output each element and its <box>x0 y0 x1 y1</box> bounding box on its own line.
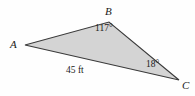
angle-label-b: 117° <box>95 24 113 34</box>
side-label-ac: 45 ft <box>66 66 84 76</box>
triangle-figure: A B C 117° 18° 45 ft <box>0 0 195 96</box>
triangle-shape <box>0 0 195 96</box>
vertex-label-a: A <box>10 39 17 50</box>
angle-label-c: 18° <box>146 60 159 70</box>
vertex-label-b: B <box>105 6 112 17</box>
vertex-label-c: C <box>182 80 189 91</box>
